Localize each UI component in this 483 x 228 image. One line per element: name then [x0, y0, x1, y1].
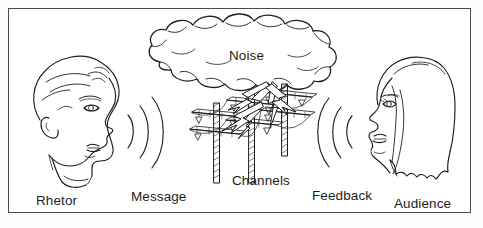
- label-feedback: Feedback: [312, 188, 372, 203]
- diagram-canvas: Rhetor Message Channels Feedback Audienc…: [0, 0, 483, 228]
- label-channels: Channels: [232, 173, 290, 188]
- rhetor-head-icon: [34, 56, 119, 187]
- feedback-waves-icon: [318, 98, 352, 167]
- message-waves-icon: [128, 97, 163, 168]
- label-rhetor: Rhetor: [36, 193, 77, 208]
- audience-head-icon: [369, 57, 455, 179]
- label-audience: Audience: [394, 196, 451, 211]
- label-message: Message: [131, 189, 186, 204]
- label-noise: Noise: [229, 48, 264, 63]
